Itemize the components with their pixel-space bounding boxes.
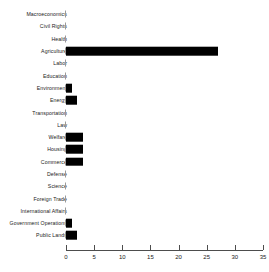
bar-row: International Affairs [0,205,269,217]
bar [66,157,83,166]
x-axis-tick [263,245,264,250]
bar-rows: MacroeconomicsCivil RightsHealthAgricult… [0,8,269,244]
x-axis-tick-label: 5 [92,253,95,261]
bar-row: Science [0,180,269,192]
x-axis-tick-label: 30 [232,253,239,261]
x-axis-line [66,250,263,251]
bar [66,133,83,142]
y-axis-tick [65,23,66,30]
category-label: Agriculture [41,48,67,54]
x-axis-tick [207,245,208,250]
y-axis-tick [65,121,66,128]
category-label: Government Operations [10,220,67,226]
x-axis-tick-label: 35 [260,253,267,261]
bar [66,96,77,105]
category-label: Public Lands [36,232,67,238]
x-axis-tick-label: 0 [64,253,67,261]
bar-row: Foreign Trade [0,192,269,204]
x-axis-tick [94,245,95,250]
bar-row: Labor [0,57,269,69]
category-label: Macroeconomics [26,11,67,17]
category-label: Civil Rights [40,23,67,29]
y-axis-tick [65,109,66,116]
plot-area: MacroeconomicsCivil RightsHealthAgricult… [0,0,269,272]
bar [66,47,218,56]
bar-row: Energy [0,94,269,106]
category-label: International Affairs [21,208,67,214]
x-axis-tick [179,245,180,250]
y-axis-tick [65,183,66,190]
y-axis-tick [65,171,66,178]
y-axis-tick [65,35,66,42]
y-axis-tick [65,195,66,202]
y-axis-tick [65,207,66,214]
category-label: Environment [37,85,67,91]
bar-row: Defense [0,168,269,180]
x-axis-tick-label: 25 [203,253,210,261]
x-axis-tick [150,245,151,250]
bar-row: Government Operations [0,217,269,229]
x-axis-tick-label: 15 [147,253,154,261]
bar-row: Commerce [0,156,269,168]
y-axis-tick [65,11,66,18]
y-axis-tick [65,72,66,79]
bar-row: Public Lands [0,229,269,241]
bar [66,145,83,154]
x-axis-tick-label: 10 [119,253,126,261]
bar-row: Macroeconomics [0,8,269,20]
bar-row: Agriculture [0,45,269,57]
x-axis-tick [122,245,123,250]
category-label: Transportation [32,110,67,116]
bar-row: Transportation [0,106,269,118]
category-label: Education [43,73,67,79]
bar [66,231,77,240]
bar-row: Housing [0,143,269,155]
bar-row: Education [0,69,269,81]
bar-row: Civil Rights [0,20,269,32]
bar-chart: MacroeconomicsCivil RightsHealthAgricult… [0,0,269,272]
bar [66,219,72,228]
x-axis-tick [66,245,67,250]
category-label: Defense [47,171,67,177]
bar-row: Law [0,119,269,131]
category-label: Commerce [41,159,67,165]
y-axis-tick [65,60,66,67]
bar [66,84,72,93]
x-axis-tick-label: 20 [175,253,182,261]
bar-row: Welfare [0,131,269,143]
x-axis-tick [235,245,236,250]
bar-row: Environment [0,82,269,94]
category-label: Foreign Trade [33,196,67,202]
bar-row: Health [0,33,269,45]
